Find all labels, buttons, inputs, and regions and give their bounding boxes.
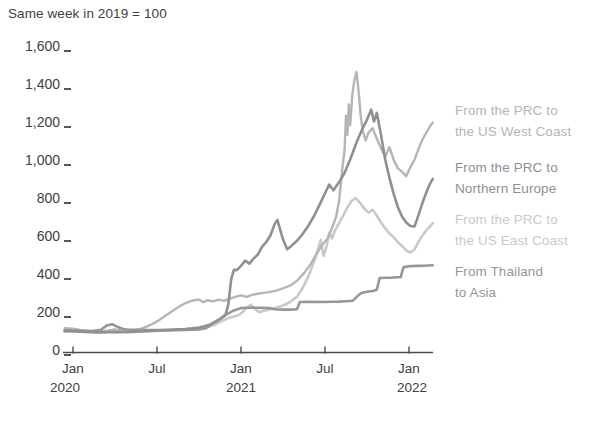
legend-thailand-asia: From Thailand to Asia [455, 261, 543, 303]
x-tick-label-jan-2020: Jan [43, 361, 103, 376]
x-year-label-2022: 2022 [382, 380, 442, 395]
legend-prc-us-east-coast: From the PRC to the US East Coast [455, 209, 568, 251]
legend-prc-northern-europe: From the PRC to Northern Europe [455, 157, 558, 199]
series-line-prc-us-east-coast [65, 198, 433, 332]
freight-rate-index-chart: Same week in 2019 = 100 1,600 1,400 1,20… [0, 0, 602, 422]
series-line-thailand-asia [65, 265, 433, 331]
x-tick-label-jan-2022: Jan [379, 361, 439, 376]
x-tick-label-jul-2020: Jul [127, 361, 187, 376]
legend-prc-us-west-coast: From the PRC to the US West Coast [455, 100, 571, 142]
x-tick-label-jul-2021: Jul [295, 361, 355, 376]
series-line-prc-us-west-coast [65, 72, 433, 331]
x-tick-label-jan-2021: Jan [211, 361, 271, 376]
x-year-label-2020: 2020 [35, 380, 95, 395]
x-year-label-2021: 2021 [211, 380, 271, 395]
